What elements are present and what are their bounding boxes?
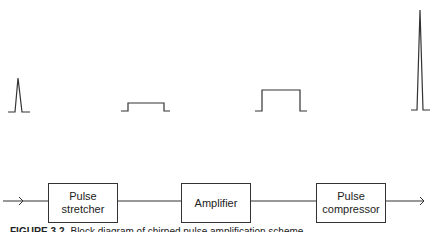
amplifier-block: Amplifier (181, 183, 251, 223)
caption-text: Block diagram of chirped pulse amplifica… (70, 226, 306, 232)
amplifier-label: Amplifier (195, 197, 238, 210)
pulse-compressor-block: Pulse compressor (316, 183, 386, 223)
pulse-compressor-label: Pulse compressor (322, 190, 379, 216)
pulse-stretcher-block: Pulse stretcher (48, 183, 118, 223)
pulse-stretcher-label: Pulse stretcher (62, 190, 105, 216)
figure-caption: FIGURE 3.2Block diagram of chirped pulse… (10, 226, 306, 232)
figure-label: FIGURE 3.2 (10, 226, 64, 232)
